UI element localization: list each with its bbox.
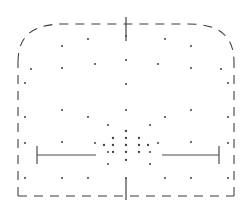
grid-dot xyxy=(61,177,63,179)
grid-dot xyxy=(87,116,89,118)
grid-dot xyxy=(24,116,26,118)
cluster-dot xyxy=(103,144,105,146)
grid-dot xyxy=(164,177,166,179)
grid-dot-group xyxy=(24,35,229,179)
grid-dot xyxy=(190,141,192,143)
diagram-canvas xyxy=(0,0,252,212)
grid-dot xyxy=(61,45,63,47)
panel-diagram xyxy=(0,0,252,212)
cluster-dot xyxy=(112,137,114,139)
grid-dot xyxy=(227,177,229,179)
grid-dot xyxy=(157,63,159,65)
cluster-dot xyxy=(112,144,114,146)
cluster-dot xyxy=(138,151,140,153)
grid-dot xyxy=(125,109,127,111)
grid-dot xyxy=(125,35,127,37)
grid-dot xyxy=(94,142,96,144)
grid-dot xyxy=(149,124,151,126)
grid-dot xyxy=(190,109,192,111)
grid-dot xyxy=(149,151,151,153)
grid-dot xyxy=(157,142,159,144)
cluster-dot xyxy=(125,151,127,153)
grid-dot xyxy=(61,67,63,69)
grid-dot xyxy=(24,82,26,84)
grid-dot xyxy=(190,177,192,179)
grid-dot xyxy=(220,68,222,70)
grid-dot xyxy=(190,45,192,47)
left-scale-bar xyxy=(37,146,96,164)
cluster-dot-group xyxy=(103,130,149,161)
cluster-dot xyxy=(112,151,114,153)
grid-dot xyxy=(87,38,89,40)
grid-dot xyxy=(107,151,109,153)
grid-dot xyxy=(164,38,166,40)
grid-dot xyxy=(227,142,229,144)
grid-dot xyxy=(94,63,96,65)
cluster-dot xyxy=(138,144,140,146)
cluster-dot xyxy=(147,144,149,146)
grid-dot xyxy=(24,142,26,144)
grid-dot xyxy=(164,116,166,118)
cluster-dot xyxy=(138,137,140,139)
scale-bar-group xyxy=(37,146,219,164)
grid-dot xyxy=(61,109,63,111)
grid-dot xyxy=(87,177,89,179)
cluster-dot xyxy=(125,159,127,161)
grid-dot xyxy=(125,83,127,85)
cluster-dot xyxy=(125,130,127,132)
grid-dot xyxy=(125,59,127,61)
grid-dot xyxy=(190,67,192,69)
grid-dot xyxy=(24,177,26,179)
cluster-dot xyxy=(125,137,127,139)
grid-dot xyxy=(107,124,109,126)
grid-dot xyxy=(30,68,32,70)
grid-dot xyxy=(227,116,229,118)
grid-dot xyxy=(107,163,109,165)
grid-dot xyxy=(125,177,127,179)
right-scale-bar xyxy=(162,146,219,164)
grid-dot xyxy=(61,141,63,143)
grid-dot xyxy=(227,82,229,84)
cluster-dot xyxy=(125,144,127,146)
grid-dot xyxy=(149,163,151,165)
